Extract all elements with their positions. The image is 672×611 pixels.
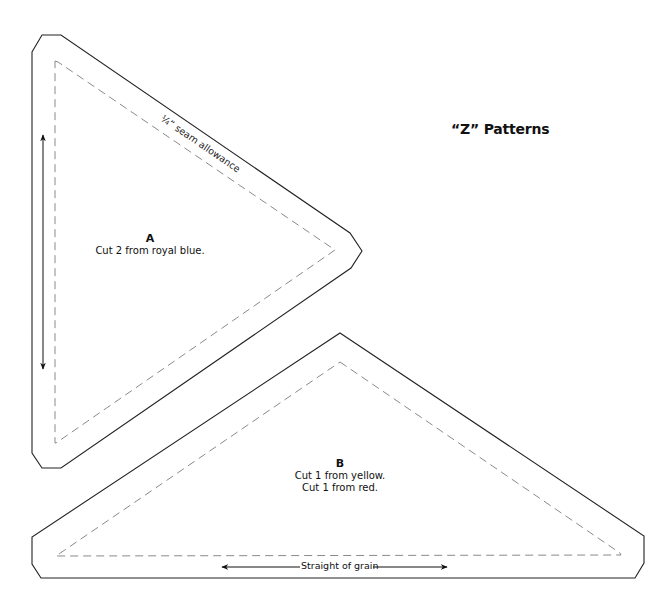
piece-b-instruction-2: Cut 1 from red. [260, 482, 420, 494]
piece-b-cut-line [32, 333, 644, 578]
pattern-canvas: ¼” seam allowance [0, 0, 672, 611]
piece-b-label: B Cut 1 from yellow. Cut 1 from red. [260, 457, 420, 494]
piece-a-label: A Cut 2 from royal blue. [80, 232, 220, 257]
page-title: “Z” Patterns [451, 121, 549, 137]
piece-a-letter: A [80, 232, 220, 245]
grain-label: Straight of grain [301, 560, 379, 571]
piece-b-letter: B [260, 457, 420, 470]
piece-b-instruction-1: Cut 1 from yellow. [260, 470, 420, 482]
seam-allowance-label: ¼” seam allowance [159, 113, 243, 175]
piece-a-instruction: Cut 2 from royal blue. [80, 245, 220, 257]
